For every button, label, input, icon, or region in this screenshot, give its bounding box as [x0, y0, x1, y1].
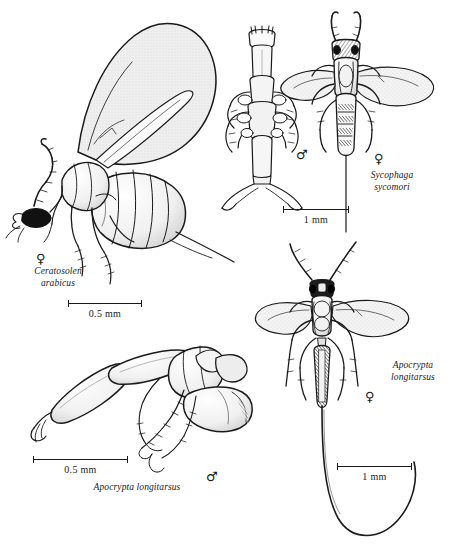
figure-sycophaga-sycomori-female: [281, 12, 434, 232]
species-label-ceratosolen-arabicus: Ceratosolen arabicus: [10, 266, 106, 289]
scale-label-sycophaga: 1 mm: [283, 214, 349, 225]
species-label-sycophaga-sycomori: Sycophaga sycomori: [344, 170, 440, 193]
sex-symbol-male-sycophaga: ♂: [296, 148, 308, 161]
sex-symbol-male-apocrypta: ♂: [206, 470, 218, 483]
scale-label-apocrypta-female: 1 mm: [337, 471, 412, 482]
sex-symbol-female-sycophaga: ♀: [374, 152, 384, 165]
species-label-apocrypta-male: Apocrypta longitarsus: [62, 482, 212, 494]
scale-bar-apocrypta-female: [337, 463, 412, 470]
scale-label-ceratosolen: 0.5 mm: [68, 308, 142, 319]
figure-sycophaga-sycomori-male: [222, 26, 302, 210]
scale-bar-ceratosolen: [68, 300, 142, 307]
sex-symbol-female-apocrypta: ♀: [365, 390, 375, 403]
scale-bar-sycophaga: [283, 206, 349, 213]
figure-apocrypta-longitarsus-male: [31, 346, 252, 472]
figure-apocrypta-longitarsus-female: [255, 242, 415, 536]
scale-label-apocrypta-male: 0.5 mm: [33, 464, 128, 475]
scale-bar-apocrypta-male: [33, 456, 128, 463]
figure-ceratosolen-arabicus-female: [6, 23, 234, 284]
illustration-plate: ♀ Ceratosolen arabicus 0.5 mm ♂ ♀ Sycoph…: [0, 0, 460, 556]
sex-symbol-female-ceratosolen: ♀: [36, 252, 46, 265]
species-label-apocrypta-female: Apocrypta longitarsus: [368, 360, 458, 383]
